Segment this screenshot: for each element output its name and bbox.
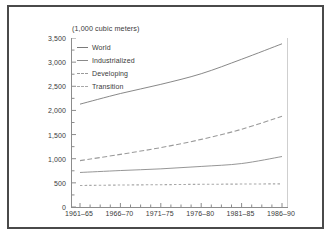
x-tick-label: 1981–85 — [227, 210, 255, 217]
x-axis-tick-labels: 1961–651966–701971–751976–801981–851986–… — [71, 210, 287, 230]
x-tick-label: 1966–70 — [105, 210, 133, 217]
y-tick-label: 2,000 — [48, 107, 66, 114]
y-tick-label: 2,500 — [48, 83, 66, 90]
legend-item-transition[interactable]: Transition — [77, 80, 169, 93]
legend-item-world[interactable]: World — [77, 41, 169, 54]
chart-title: (1,000 cubic meters) — [72, 24, 140, 33]
series-line — [80, 184, 282, 186]
series-line — [80, 116, 282, 160]
y-tick-label: 1,500 — [48, 131, 66, 138]
legend-item-industrialized[interactable]: Industrialized — [77, 54, 169, 67]
legend-item-developing[interactable]: Developing — [77, 67, 169, 80]
series-line — [80, 157, 282, 173]
chart-legend: WorldIndustrializedDevelopingTransition — [77, 41, 169, 93]
y-tick-label: 1,000 — [48, 155, 66, 162]
legend-item-label: World — [92, 44, 111, 51]
legend-line-swatch-icon — [77, 57, 88, 65]
y-tick-label: 500 — [54, 179, 66, 186]
x-tick-label: 1961–65 — [65, 210, 93, 217]
x-tick-label: 1971–75 — [146, 210, 174, 217]
y-axis-tick-labels: 05001,0001,5002,0002,5003,0003,500 — [9, 7, 71, 240]
legend-line-swatch-icon — [77, 83, 88, 91]
legend-line-swatch-icon — [77, 70, 88, 78]
x-tick-label: 1976–80 — [186, 210, 214, 217]
legend-line-swatch-icon — [77, 44, 88, 52]
legend-item-label: Industrialized — [92, 57, 135, 64]
y-tick-label: 3,000 — [48, 59, 66, 66]
legend-item-label: Transition — [92, 83, 123, 90]
x-tick-label: 1986–90 — [267, 210, 295, 217]
figure-frame: (1,000 cubic meters) 05001,0001,5002,000… — [7, 5, 324, 229]
legend-item-label: Developing — [92, 70, 128, 77]
figure-canvas: (1,000 cubic meters) 05001,0001,5002,000… — [0, 0, 332, 240]
y-tick-label: 3,500 — [48, 35, 66, 42]
